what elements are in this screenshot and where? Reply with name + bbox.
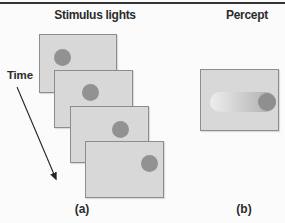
figure-canvas: Stimulus lights Percept Time (a) (b) (0, 0, 285, 223)
caption-b: (b) (224, 202, 264, 216)
top-rule (0, 2, 285, 4)
caption-a: (a) (62, 202, 102, 216)
stimulus-light-dot-2 (82, 84, 99, 101)
percept-dot (258, 93, 276, 111)
stimulus-light-dot-1 (54, 49, 71, 66)
percept-title: Percept (207, 8, 285, 22)
stimulus-frame-4 (85, 141, 164, 198)
percept-panel (200, 69, 279, 131)
stimulus-lights-title: Stimulus lights (30, 8, 160, 22)
time-arrow-line (17, 87, 56, 179)
stimulus-light-dot-3 (112, 121, 129, 138)
time-label: Time (7, 69, 33, 81)
stimulus-light-dot-4 (141, 155, 158, 172)
